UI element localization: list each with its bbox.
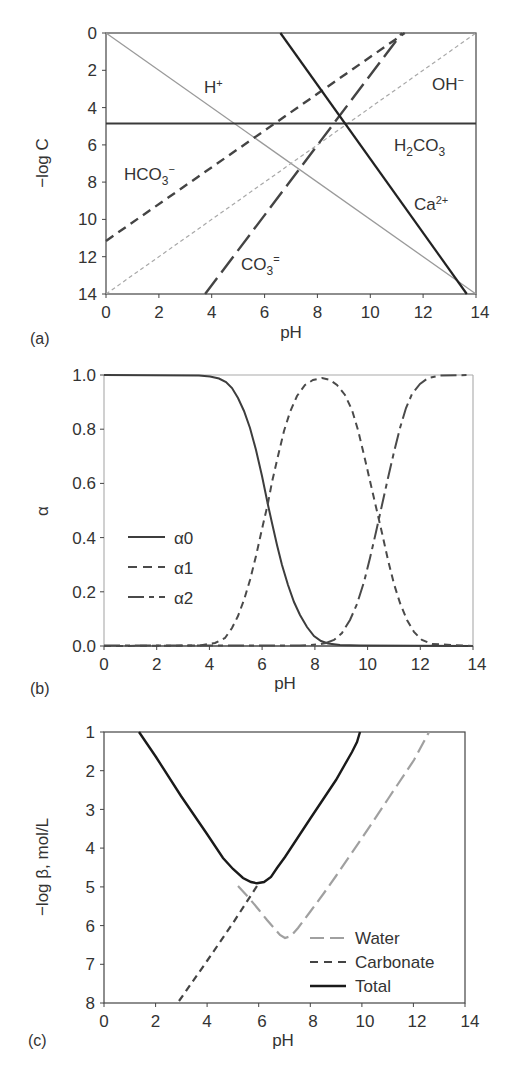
svg-text:10: 10 xyxy=(356,1012,375,1031)
series-total xyxy=(139,732,360,883)
svg-text:10: 10 xyxy=(78,210,97,229)
panel-letter-c: (c) xyxy=(28,1032,47,1049)
legend-label-water: Water xyxy=(355,929,400,948)
y-tick-labels-c: 1 2 3 4 5 6 7 8 xyxy=(86,723,95,1013)
x-axis-title-b: pH xyxy=(274,674,296,693)
svg-text:8: 8 xyxy=(88,173,97,192)
svg-text:3: 3 xyxy=(86,801,95,820)
label-oh-minus: OH− xyxy=(432,74,464,94)
svg-text:0: 0 xyxy=(99,655,108,674)
svg-text:14: 14 xyxy=(78,285,97,304)
svg-text:2: 2 xyxy=(154,303,163,322)
legend-label-alpha2: α2 xyxy=(174,589,193,608)
svg-text:12: 12 xyxy=(78,248,97,267)
x-axis-title-c: pH xyxy=(272,1031,294,1050)
svg-text:12: 12 xyxy=(411,655,430,674)
label-co3: CO3= xyxy=(241,253,280,278)
panel-a: H+ OH− H2CO3 HCO3− Ca2+ CO3= 0 2 4 6 8 1… xyxy=(30,24,489,347)
y-tick-labels-b: 1.0 0.8 0.6 0.4 0.2 0.0 xyxy=(72,366,96,656)
series-alpha2 xyxy=(104,375,470,646)
panel-letter-a: (a) xyxy=(30,330,50,347)
svg-text:14: 14 xyxy=(468,655,487,674)
y-axis-title-b: α xyxy=(33,506,52,516)
y-axis-title-a: −log C xyxy=(33,138,52,188)
svg-text:8: 8 xyxy=(308,1012,317,1031)
svg-text:10: 10 xyxy=(361,303,380,322)
svg-text:0.2: 0.2 xyxy=(72,583,96,602)
figure: H+ OH− H2CO3 HCO3− Ca2+ CO3= 0 2 4 6 8 1… xyxy=(0,0,514,1072)
panel-b: α0 α1 α2 1.0 0.8 0.6 0.4 0.2 0.0 xyxy=(30,366,486,697)
svg-text:6: 6 xyxy=(257,1012,266,1031)
svg-text:6: 6 xyxy=(88,136,97,155)
svg-text:10: 10 xyxy=(358,655,377,674)
svg-text:0: 0 xyxy=(99,1012,108,1031)
svg-text:6: 6 xyxy=(257,655,266,674)
svg-text:6: 6 xyxy=(86,917,95,936)
svg-text:12: 12 xyxy=(408,1012,427,1031)
svg-text:4: 4 xyxy=(205,655,214,674)
legend-label-carbonate: Carbonate xyxy=(355,953,434,972)
label-h-plus: H+ xyxy=(204,77,223,97)
series-carbonate xyxy=(179,886,257,1001)
svg-text:0.6: 0.6 xyxy=(72,474,96,493)
svg-text:0.8: 0.8 xyxy=(72,420,96,439)
label-ca2: Ca2+ xyxy=(414,194,448,214)
legend-c: Water Carbonate Total xyxy=(310,929,434,996)
series-alpha1 xyxy=(104,378,473,646)
series-water xyxy=(238,732,429,938)
svg-text:4: 4 xyxy=(88,99,97,118)
x-tick-labels-c: 0 2 4 6 8 10 12 14 xyxy=(99,1012,479,1031)
x-tick-labels-a: 0 2 4 6 8 10 12 14 xyxy=(101,303,489,322)
svg-text:1: 1 xyxy=(86,723,95,742)
legend-b: α0 α1 α2 xyxy=(128,529,193,608)
x-axis-title-a: pH xyxy=(280,323,302,342)
svg-text:8: 8 xyxy=(86,994,95,1013)
svg-text:1.0: 1.0 xyxy=(72,366,96,385)
legend-label-total: Total xyxy=(355,977,391,996)
y-axis-b xyxy=(100,375,104,646)
y-axis-title-c: −log β, mol/L xyxy=(33,818,52,916)
panel-letter-b: (b) xyxy=(30,680,50,697)
svg-text:0.0: 0.0 xyxy=(72,637,96,656)
panel-c: Water Carbonate Total 1 2 3 4 5 6 7 8 xyxy=(28,723,479,1050)
svg-text:4: 4 xyxy=(207,303,216,322)
svg-text:4: 4 xyxy=(202,1012,211,1031)
label-hco3: HCO3− xyxy=(124,163,175,188)
svg-text:2: 2 xyxy=(152,655,161,674)
svg-text:0.4: 0.4 xyxy=(72,529,96,548)
svg-text:8: 8 xyxy=(310,655,319,674)
svg-text:14: 14 xyxy=(461,1012,480,1031)
svg-text:12: 12 xyxy=(414,303,433,322)
y-tick-labels-a: 0 2 4 6 8 10 12 14 xyxy=(78,24,97,304)
svg-text:2: 2 xyxy=(88,61,97,80)
svg-text:4: 4 xyxy=(86,839,95,858)
svg-text:2: 2 xyxy=(86,762,95,781)
svg-text:6: 6 xyxy=(260,303,269,322)
legend-label-alpha1: α1 xyxy=(174,559,193,578)
legend-label-alpha0: α0 xyxy=(174,529,193,548)
x-tick-labels-b: 0 2 4 6 8 10 12 14 xyxy=(99,655,486,674)
label-h2co3: H2CO3 xyxy=(394,136,445,159)
svg-text:5: 5 xyxy=(86,878,95,897)
svg-text:0: 0 xyxy=(88,24,97,43)
svg-text:8: 8 xyxy=(313,303,322,322)
svg-text:2: 2 xyxy=(151,1012,160,1031)
svg-text:7: 7 xyxy=(86,955,95,974)
svg-text:0: 0 xyxy=(101,303,110,322)
svg-text:14: 14 xyxy=(471,303,490,322)
